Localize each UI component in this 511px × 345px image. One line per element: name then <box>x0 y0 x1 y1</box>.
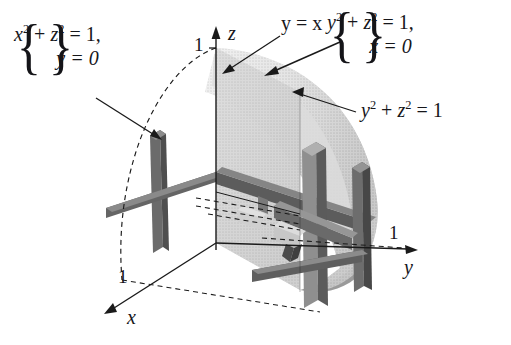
slab-vertical-right <box>352 162 372 292</box>
axis-tick-y-1: 1 <box>389 222 399 243</box>
label-right-system: { y2 + z2 = 1, x = 0 } <box>327 10 389 58</box>
left-brace-close: } <box>48 22 72 70</box>
leader-left-system <box>96 98 162 140</box>
right-brace-close: } <box>361 10 385 58</box>
axis-tick-x-1: 1 <box>118 266 128 287</box>
figure-canvas: { x2 + z2 = 1, y = 0 } { y2 + z2 = 1, x … <box>0 0 511 345</box>
axis-label-x: x <box>127 306 136 328</box>
label-plane-y-equals-x: y = x <box>281 12 322 34</box>
axis-label-y: y <box>404 256 413 278</box>
label-left-system: { x2 + z2 = 1, y = 0 } <box>14 22 76 70</box>
label-cylinder-equation: y2 + z2 = 1 <box>361 99 443 121</box>
axis-tick-z-1: 1 <box>194 34 204 55</box>
axis-label-z: z <box>228 22 236 44</box>
